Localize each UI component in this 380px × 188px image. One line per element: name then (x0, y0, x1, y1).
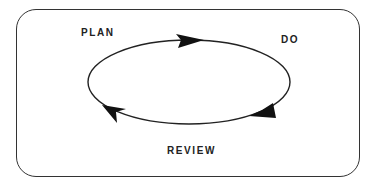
label-do: DO (281, 34, 299, 45)
label-review: REVIEW (167, 145, 216, 156)
cycle-ellipse (0, 0, 380, 188)
arrow-down-left-icon (249, 103, 276, 118)
label-plan: PLAN (81, 27, 115, 38)
arrow-right-icon (176, 34, 204, 48)
